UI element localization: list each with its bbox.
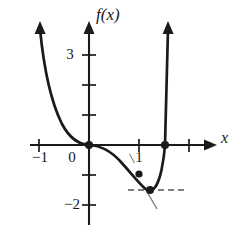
x-axis-label: x: [221, 130, 228, 146]
x-tick-label-zero: 0: [64, 150, 80, 165]
point-minimum: [146, 186, 154, 194]
y-axis-arrowhead: [84, 21, 95, 34]
axes-group: [30, 21, 217, 225]
point-origin: [85, 141, 93, 149]
tangent-segment-at-minimum: [147, 191, 158, 209]
point-x-intercept-right: [161, 141, 169, 149]
graph-canvas: [0, 0, 237, 241]
point-on-curve-at-x1: [135, 170, 142, 177]
curve-left-arrowhead: [35, 21, 46, 34]
x-axis-arrowhead: [204, 140, 217, 151]
function-graph-figure: f(x) x −1 0 1 3 −2: [0, 0, 237, 241]
y-tick-label-neg2: −2: [60, 197, 84, 212]
x-tick-label-pos1: 1: [132, 150, 146, 165]
curve-right-branch: [151, 29, 169, 191]
function-curve-group: [35, 21, 174, 191]
curve-right-arrowhead: [163, 21, 174, 34]
y-tick-label-3: 3: [63, 47, 77, 62]
y-axis-label: f(x): [96, 6, 120, 23]
x-tick-label-neg1: −1: [29, 150, 51, 165]
